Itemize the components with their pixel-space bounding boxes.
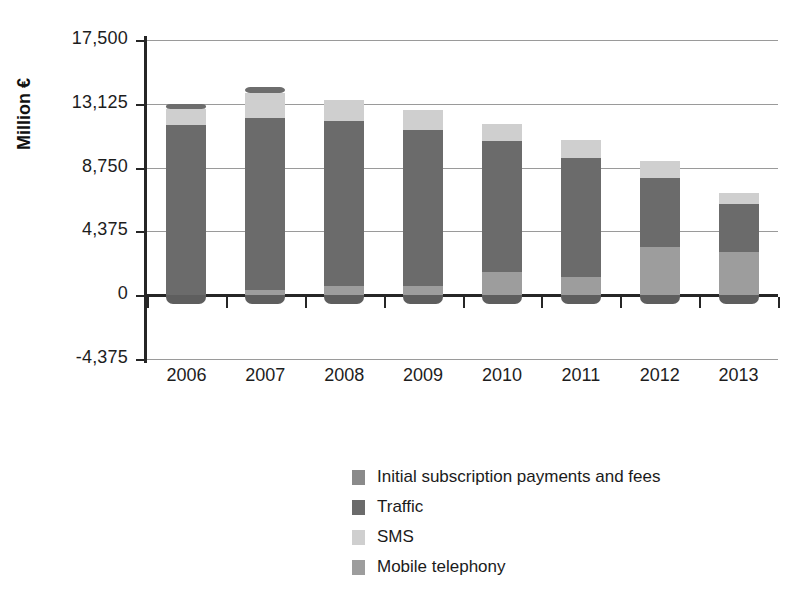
- gridline: [147, 231, 778, 232]
- x-axis-tick: [778, 297, 780, 308]
- legend-item: Initial subscription payments and fees: [352, 462, 661, 492]
- legend-label-traffic: Traffic: [377, 497, 423, 517]
- bar-segment-traffic: [719, 204, 759, 252]
- bar-segment-mobile-telephony: [719, 252, 759, 295]
- bar-segment-sms: [561, 140, 601, 158]
- legend-swatch-sms: [352, 530, 365, 545]
- legend-label-sms: SMS: [377, 527, 414, 547]
- legend-item: Mobile telephony: [352, 552, 661, 582]
- bar-segment-sms: [403, 110, 443, 130]
- x-axis-tick: [147, 297, 149, 308]
- y-axis-tick-label: 13,125: [0, 92, 128, 113]
- y-axis-tick: [136, 168, 145, 170]
- bar-segment-traffic: [245, 118, 285, 290]
- legend-label-initial-subscription: Initial subscription payments and fees: [377, 467, 661, 487]
- bar-segment-sms: [482, 124, 522, 141]
- y-axis-tick-label: 4,375: [0, 219, 128, 240]
- y-axis-tick: [136, 40, 145, 42]
- bar-segment-traffic: [403, 130, 443, 286]
- y-axis-line: [144, 36, 147, 363]
- bar-segment-initial-subscription: [166, 104, 206, 109]
- bar-segment-sms: [640, 161, 680, 178]
- y-axis-tick-label: 8,750: [0, 156, 128, 177]
- y-axis-tick: [136, 104, 145, 106]
- x-axis-label-2007: 2007: [220, 365, 310, 386]
- x-axis-tick: [463, 297, 465, 308]
- y-axis-title: Million €: [14, 78, 35, 150]
- y-axis-tick: [136, 231, 145, 233]
- bar-segment-traffic: [640, 178, 680, 247]
- legend-swatch-mobile-telephony: [352, 560, 365, 575]
- y-axis-tick: [136, 359, 145, 361]
- legend-label-mobile-telephony: Mobile telephony: [377, 557, 506, 577]
- y-axis-tick: [136, 295, 145, 297]
- bar-segment-traffic: [561, 158, 601, 277]
- bar-segment-sms: [719, 193, 759, 204]
- bar-segment-mobile-telephony: [640, 247, 680, 295]
- gridline: [147, 104, 778, 105]
- x-axis-label-2009: 2009: [378, 365, 468, 386]
- bar-segment-mobile-telephony: [561, 277, 601, 295]
- y-axis-tick-label: -4,375: [0, 347, 128, 368]
- x-axis-tick: [541, 297, 543, 308]
- legend-swatch-initial-subscription: [352, 470, 365, 485]
- gridline: [147, 359, 778, 360]
- bar-segment-sms: [166, 109, 206, 125]
- x-axis-label-2013: 2013: [694, 365, 784, 386]
- legend-swatch-traffic: [352, 500, 365, 515]
- gridline: [147, 168, 778, 169]
- bar-segment-mobile-telephony: [245, 290, 285, 295]
- x-axis-label-2008: 2008: [299, 365, 389, 386]
- x-axis-tick: [699, 297, 701, 308]
- bar-segment-traffic: [166, 125, 206, 295]
- x-axis-tick: [384, 297, 386, 308]
- x-axis-label-2011: 2011: [536, 365, 626, 386]
- y-axis-tick-label: 17,500: [0, 28, 128, 49]
- x-axis-tick: [620, 297, 622, 308]
- stacked-bar-chart: Million € 17,50013,1258,7504,3750-4,375 …: [0, 0, 795, 612]
- x-axis-label-2012: 2012: [615, 365, 705, 386]
- gridline: [147, 40, 778, 41]
- bar-segment-sms: [245, 93, 285, 118]
- chart-legend: Initial subscription payments and fees T…: [352, 462, 661, 582]
- bar-segment-sms: [324, 100, 364, 121]
- x-axis-tick: [305, 297, 307, 308]
- bar-segment-initial-subscription: [245, 87, 285, 93]
- x-axis-tick: [226, 297, 228, 308]
- bar-segment-mobile-telephony: [403, 286, 443, 295]
- bar-segment-traffic: [482, 141, 522, 272]
- x-axis-label-2010: 2010: [457, 365, 547, 386]
- bar-segment-traffic: [324, 121, 364, 286]
- legend-item: SMS: [352, 522, 661, 552]
- y-axis-tick-label: 0: [0, 283, 128, 304]
- bar-segment-mobile-telephony: [482, 272, 522, 295]
- bar-segment-mobile-telephony: [324, 286, 364, 295]
- x-axis-label-2006: 2006: [141, 365, 231, 386]
- legend-item: Traffic: [352, 492, 661, 522]
